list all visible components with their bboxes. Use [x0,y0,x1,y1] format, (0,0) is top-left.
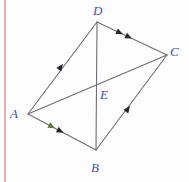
vertex-label-C: C [170,45,179,58]
diagonal-AC [28,55,167,114]
geometry-figure: D C E A B [0,0,189,182]
diagram-canvas [0,0,189,182]
segment-AD [28,22,97,114]
vertex-label-D: D [93,4,102,17]
vertex-label-B: B [91,161,99,174]
diagonal-DB [96,22,97,150]
vertex-label-E: E [100,88,108,101]
vertex-label-A: A [10,107,18,120]
segment-BC [96,55,167,150]
